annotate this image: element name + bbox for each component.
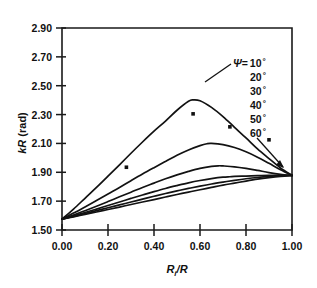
x-axis-title-main: R <box>166 263 174 275</box>
y-tick-label-3: 2.10 <box>32 137 53 149</box>
legend-degree-0: ° <box>263 57 266 66</box>
x-tick-label-3: 0.60 <box>190 240 211 252</box>
data-point-marker <box>191 112 195 116</box>
x-tick-label-5: 1.00 <box>282 240 303 252</box>
y-axis-title-unit: (rad) <box>16 112 28 140</box>
y-tick-label-2: 1.90 <box>32 166 53 178</box>
y-axis-title-symbol: kR <box>16 140 28 154</box>
x-tick-label-4: 0.80 <box>236 240 257 252</box>
legend-value-1: 20 <box>250 71 262 83</box>
x-tick-label-2: 0.40 <box>144 240 165 252</box>
legend-degree-1: ° <box>263 71 266 80</box>
y-tick-label-5: 2.50 <box>32 80 53 92</box>
x-tick-label-1: 0.20 <box>98 240 119 252</box>
y-tick-label-7: 2.90 <box>32 22 53 34</box>
data-point-marker <box>267 138 271 142</box>
kr-vs-radius-ratio-chart: 1.50 1.70 1.90 2.10 2.30 2.50 2.70 2.90 … <box>0 0 317 288</box>
y-axis-title: kR (rad) <box>16 112 28 154</box>
legend-degree-3: ° <box>263 99 266 108</box>
legend-degree-5: ° <box>263 127 266 136</box>
legend-degree-2: ° <box>263 85 266 94</box>
legend-degree-4: ° <box>263 113 266 122</box>
figure-container: 1.50 1.70 1.90 2.10 2.30 2.50 2.70 2.90 … <box>0 0 317 288</box>
y-tick-label-4: 2.30 <box>32 109 53 121</box>
y-tick-label-1: 1.70 <box>32 195 53 207</box>
legend-equals: = <box>242 57 248 69</box>
legend-value-3: 40 <box>250 99 262 111</box>
data-point-marker <box>228 125 232 129</box>
y-tick-label-6: 2.70 <box>32 51 53 63</box>
legend-value-0: 10 <box>250 57 262 69</box>
legend-row-0: Ψ=10° <box>233 57 266 69</box>
x-tick-label-0: 0.00 <box>52 240 73 252</box>
legend-value-2: 30 <box>250 85 262 97</box>
x-axis-title-rest: /R <box>176 263 188 275</box>
data-point-marker <box>125 165 129 169</box>
legend-value-5: 60 <box>250 127 262 139</box>
y-tick-label-0: 1.50 <box>32 224 53 236</box>
legend-value-4: 50 <box>250 113 262 125</box>
